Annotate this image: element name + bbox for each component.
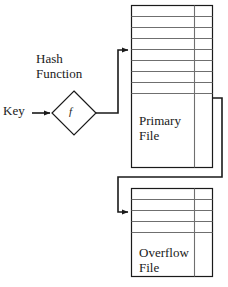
hash-function-diamond-shape	[52, 91, 96, 135]
diagram-graphics	[0, 0, 228, 287]
hash-to-primary-arrow-path	[96, 50, 128, 113]
overflow-file-label: OverflowFile	[139, 245, 189, 276]
hash-to-primary-arrow	[96, 50, 128, 113]
overflow-file-label-line2: File	[139, 260, 189, 275]
diagram-canvas: HashFunction Key f PrimaryFile OverflowF…	[0, 0, 228, 287]
primary-file-label-line2: File	[139, 128, 181, 143]
overflow-file-label-line1: Overflow	[139, 245, 189, 260]
hash-function-label: HashFunction	[36, 51, 82, 82]
hash-function-symbol-label: f	[69, 105, 72, 118]
hash-function-diamond[interactable]	[52, 91, 96, 135]
key-input-label: Key	[3, 103, 25, 118]
hash-function-label-line1: Hash	[36, 51, 82, 66]
hash-function-label-line2: Function	[36, 66, 82, 81]
primary-file-label-line1: Primary	[139, 113, 181, 128]
primary-file-label: PrimaryFile	[139, 113, 181, 144]
